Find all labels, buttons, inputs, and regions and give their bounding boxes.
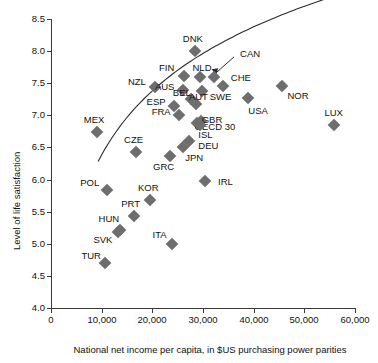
- x-tick-label: 50,000: [276, 315, 332, 325]
- data-point-usa[interactable]: [242, 92, 255, 105]
- data-point-label-swe: SWE: [210, 92, 232, 102]
- y-tick-label: 5.0: [15, 239, 45, 249]
- data-point-label-nzl: NZL: [128, 77, 146, 87]
- y-tick-label: 7.5: [15, 78, 45, 88]
- data-point-label-isl: ISL: [198, 130, 212, 140]
- data-point-pol[interactable]: [100, 183, 113, 196]
- x-tick-label: 30,000: [175, 315, 231, 325]
- data-point-prt[interactable]: [127, 210, 140, 223]
- data-point-label-can: CAN: [240, 49, 260, 59]
- data-point-label-jpn: JPN: [185, 153, 203, 163]
- data-point-label-cze: CZE: [124, 135, 143, 145]
- y-tick-label: 8.5: [15, 14, 45, 24]
- y-tick-label: 7.0: [15, 110, 45, 120]
- data-point-label-aus: AUS: [155, 82, 175, 92]
- y-tick-label: 8.0: [15, 46, 45, 56]
- y-tick-label: 5.5: [15, 207, 45, 217]
- x-tick-mark: [51, 309, 52, 313]
- data-point-label-aut: AUT: [189, 92, 208, 102]
- x-tick-label: 0: [23, 315, 79, 325]
- data-point-label-prt: PRT: [121, 199, 140, 209]
- data-point-label-usa: USA: [248, 106, 268, 116]
- x-tick-label: 40,000: [226, 315, 282, 325]
- data-point-label-pol: POL: [80, 178, 99, 188]
- data-point-label-mex: MEX: [84, 115, 105, 125]
- data-point-label-hun: HUN: [99, 214, 120, 224]
- data-point-label-tur: TUR: [81, 251, 101, 261]
- x-axis-title: National net income per capita, in $US p…: [50, 344, 370, 355]
- data-point-label-nor: NOR: [287, 91, 308, 101]
- data-point-label-fin: FIN: [159, 63, 174, 73]
- data-point-label-grc: GRC: [153, 162, 174, 172]
- y-tick-label: 6.0: [15, 175, 45, 185]
- data-point-label-deu: DEU: [198, 141, 218, 151]
- x-tick-mark: [203, 309, 204, 313]
- data-point-label-dnk: DNK: [183, 34, 203, 44]
- data-point-mex[interactable]: [91, 126, 104, 139]
- scatter-chart: Level of life satisfaction National net …: [0, 0, 378, 363]
- y-tick-mark: [47, 83, 51, 84]
- y-tick-mark: [47, 212, 51, 213]
- y-tick-mark: [47, 180, 51, 181]
- x-tick-mark: [152, 309, 153, 313]
- x-tick-label: 60,000: [327, 315, 378, 325]
- x-tick-label: 20,000: [124, 315, 180, 325]
- data-point-fin[interactable]: [177, 70, 190, 83]
- data-point-label-kor: KOR: [138, 183, 159, 193]
- y-tick-mark: [47, 115, 51, 116]
- data-point-label-svk: SVK: [93, 235, 112, 245]
- data-point-label-fra: FRA: [152, 107, 171, 117]
- x-tick-mark: [254, 309, 255, 313]
- y-tick-label: 4.0: [15, 303, 45, 313]
- data-point-ita[interactable]: [165, 238, 178, 251]
- y-axis-line: [51, 19, 52, 309]
- data-point-label-nld: NLD: [192, 63, 211, 73]
- y-tick-mark: [47, 276, 51, 277]
- x-tick-label: 10,000: [74, 315, 130, 325]
- data-point-dnk[interactable]: [189, 45, 202, 58]
- y-tick-label: 4.5: [15, 271, 45, 281]
- x-tick-mark: [355, 309, 356, 313]
- data-point-lux[interactable]: [327, 119, 340, 132]
- data-point-label-lux: LUX: [324, 108, 342, 118]
- y-tick-mark: [47, 19, 51, 20]
- data-point-label-ita: ITA: [153, 230, 167, 240]
- y-tick-mark: [47, 244, 51, 245]
- y-tick-label: 6.5: [15, 142, 45, 152]
- data-point-kor[interactable]: [144, 194, 157, 207]
- data-point-label-che: CHE: [231, 73, 251, 83]
- x-tick-mark: [102, 309, 103, 313]
- data-point-irl[interactable]: [198, 174, 211, 187]
- y-axis-title: Level of life satisfaction: [11, 152, 22, 250]
- y-tick-mark: [47, 147, 51, 148]
- y-tick-mark: [47, 51, 51, 52]
- data-point-label-irl: IRL: [218, 177, 233, 187]
- x-tick-mark: [304, 309, 305, 313]
- data-point-cze[interactable]: [129, 146, 142, 159]
